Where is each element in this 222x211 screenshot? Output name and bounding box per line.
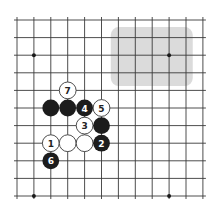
white-stone-icon (76, 135, 93, 152)
move-number-label: 5 (98, 104, 104, 114)
move-number-label: 1 (48, 139, 54, 149)
move-number-label: 3 (81, 121, 87, 131)
move-number-label: 2 (98, 139, 104, 149)
black-stone[interactable] (93, 117, 110, 134)
go-board[interactable]: 7453126 (0, 0, 222, 211)
white-stone[interactable] (59, 135, 76, 152)
white-stone[interactable]: 7 (59, 82, 76, 99)
move-number-label: 6 (48, 156, 54, 166)
star-point-icon (167, 53, 171, 57)
black-stone[interactable]: 2 (93, 135, 110, 152)
white-stone[interactable]: 1 (42, 135, 59, 152)
black-stone[interactable]: 6 (42, 152, 59, 169)
black-stone-icon (93, 117, 110, 134)
black-stone-icon (42, 100, 59, 117)
white-stone-icon (59, 135, 76, 152)
white-stone[interactable]: 5 (93, 100, 110, 117)
star-point-icon (167, 194, 171, 198)
move-number-label: 7 (65, 86, 71, 96)
black-stone-icon (59, 100, 76, 117)
star-point-icon (32, 194, 36, 198)
star-point-icon (32, 53, 36, 57)
black-stone[interactable] (42, 100, 59, 117)
white-stone[interactable]: 3 (76, 117, 93, 134)
black-stone[interactable]: 4 (76, 100, 93, 117)
white-stone[interactable] (76, 135, 93, 152)
black-stone[interactable] (59, 100, 76, 117)
move-number-label: 4 (81, 104, 87, 114)
